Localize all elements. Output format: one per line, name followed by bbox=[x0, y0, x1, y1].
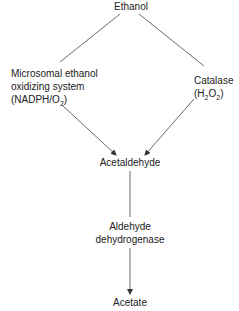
node-aldehyde-dehydrogenase: Aldehyde dehydrogenase bbox=[96, 220, 165, 246]
connector-lines bbox=[0, 0, 239, 311]
catalase-line2: (H2O2) bbox=[194, 87, 233, 100]
edge-ethanol-meos bbox=[60, 14, 120, 62]
catalase-line1: Catalase bbox=[194, 74, 233, 87]
aldh-line2: dehydrogenase bbox=[96, 233, 165, 246]
node-acetate: Acetate bbox=[113, 297, 147, 309]
edge-meos-acetaldehyde bbox=[62, 105, 116, 155]
meos-line3: (NADPH/O2) bbox=[11, 93, 98, 106]
node-meos: Microsomal ethanol oxidizing system (NAD… bbox=[11, 67, 98, 106]
node-ethanol: Ethanol bbox=[114, 1, 148, 13]
pathway-diagram: Ethanol Microsomal ethanol oxidizing sys… bbox=[0, 0, 239, 311]
node-ethanol-label: Ethanol bbox=[114, 1, 148, 12]
node-catalase: Catalase (H2O2) bbox=[194, 74, 233, 100]
node-acetaldehyde-label: Acetaldehyde bbox=[100, 157, 161, 168]
meos-line1: Microsomal ethanol bbox=[11, 67, 98, 80]
edge-catalase-acetaldehyde bbox=[145, 99, 194, 155]
node-acetaldehyde: Acetaldehyde bbox=[100, 157, 161, 169]
edge-ethanol-catalase bbox=[139, 14, 204, 66]
aldh-line1: Aldehyde bbox=[96, 220, 165, 233]
node-acetate-label: Acetate bbox=[113, 297, 147, 308]
meos-line2: oxidizing system bbox=[11, 80, 98, 93]
